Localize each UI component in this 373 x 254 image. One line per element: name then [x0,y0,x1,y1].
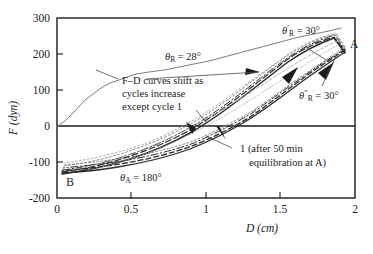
xtick-1: 1 [203,203,209,215]
note-equil-line2: equilibration at A) [249,157,326,169]
figure-container: 300 200 100 0 -100 -200 0 0.5 1 1.5 2 D … [0,0,373,254]
note-shift-line1: F–D curves shift as [122,75,203,86]
ytick-0: 0 [44,120,50,132]
xtick-0: 0 [54,203,60,215]
xtick-2: 2 [352,203,358,215]
ytick-200: 200 [33,48,51,60]
chart-background [0,0,373,254]
ytick-neg200: -200 [29,192,50,204]
note-equil-line1: 1 (after 50 min [240,143,303,155]
ytick-neg100: -100 [29,156,50,168]
x-axis-label: D (cm) [245,222,278,235]
ytick-300: 300 [33,12,51,24]
ytick-100: 100 [33,84,51,96]
point-B-label: B [66,176,74,188]
xtick-0p5: 0.5 [124,203,139,215]
y-axis-label: F (dyn) [7,101,20,136]
note-shift-line2: cycles increase [122,88,186,99]
note-shift-line3: except cycle 1 [122,101,182,112]
point-A-label: A [350,38,359,50]
fd-hysteresis-chart: 300 200 100 0 -100 -200 0 0.5 1 1.5 2 D … [0,0,373,254]
xtick-1p5: 1.5 [273,203,288,215]
